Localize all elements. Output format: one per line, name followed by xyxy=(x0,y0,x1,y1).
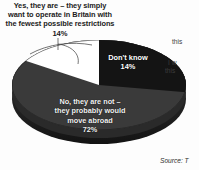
slice-label-no-percent: 72% xyxy=(37,125,143,134)
slice-label-no-line-3: move abroad xyxy=(37,116,143,125)
slice-label-no: No, they are not – they probably would m… xyxy=(37,97,143,134)
slice-label-dont-know-percent: 14% xyxy=(98,62,158,71)
margin-text-fragment-3: this xyxy=(165,67,175,76)
slice-label-no-line-2: they probably would xyxy=(37,106,143,115)
slice-label-dont-know-text: Don't know xyxy=(98,53,158,62)
slice-label-dont-know: Don't know 14% xyxy=(98,53,158,71)
margin-text-fragment-1: this xyxy=(172,38,182,47)
callout-percent-yes: 14% xyxy=(1,29,119,38)
callout-label-yes: Yes, they are – they simply want to oper… xyxy=(1,2,119,28)
pie-chart-figure: Yes, they are – they simply want to oper… xyxy=(0,0,199,170)
source-note: Source: T xyxy=(160,157,189,164)
slice-label-no-line-1: No, they are not – xyxy=(37,97,143,106)
callout-line-3: the fewest possible restrictions xyxy=(1,20,119,29)
